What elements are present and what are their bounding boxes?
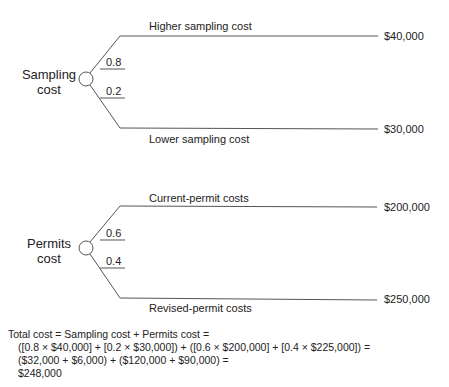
outcome-value: $40,000 [384, 30, 424, 43]
branch-lower-sampling [90, 85, 378, 129]
branch-label: Lower sampling cost [149, 133, 249, 146]
branch-label: Higher sampling cost [149, 20, 252, 33]
node-label-line: Sampling [20, 67, 78, 82]
formula-line: ($32,000 + $6,000) + ($120,000 + $90,000… [8, 354, 370, 367]
sampling-node-label: Sampling cost [20, 67, 78, 97]
sampling-chance-node [79, 72, 93, 86]
branch-label: Revised-permit costs [149, 302, 252, 315]
formula-line: ([0.8 × $40,000] + [0.2 × $30,000]) + ([… [8, 341, 370, 354]
outcome-value: $30,000 [384, 123, 424, 136]
probability-label: 0.2 [106, 85, 121, 98]
formula-line: Total cost = Sampling cost + Permits cos… [8, 328, 370, 341]
node-label-line: cost [20, 82, 78, 97]
outcome-value: $250,000 [384, 293, 430, 306]
permits-chance-node [79, 241, 93, 255]
formula-result: $248,000 [8, 367, 370, 380]
node-label-line: cost [20, 251, 78, 266]
node-label-line: Permits [20, 236, 78, 251]
total-cost-formula: Total cost = Sampling cost + Permits cos… [8, 328, 370, 380]
branch-revised-permit [90, 254, 377, 300]
probability-label: 0.6 [106, 227, 121, 240]
outcome-value: $200,000 [384, 201, 430, 214]
branch-higher-sampling [90, 36, 378, 73]
probability-label: 0.8 [106, 56, 121, 69]
branch-label: Current-permit costs [149, 192, 249, 205]
permits-node-label: Permits cost [20, 236, 78, 266]
probability-label: 0.4 [106, 255, 121, 268]
branch-current-permit [90, 206, 377, 242]
